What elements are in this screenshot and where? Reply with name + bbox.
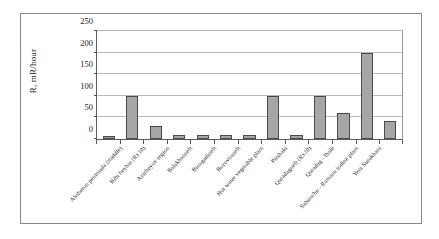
plot-area: 050100150200250 bbox=[96, 30, 403, 140]
x-axis-tickmark bbox=[379, 140, 403, 144]
x-axis-tickmarks bbox=[96, 140, 403, 144]
y-axis-title: R, mR/hour bbox=[28, 21, 38, 121]
bar-slot bbox=[332, 31, 355, 139]
bar-slot bbox=[308, 31, 331, 139]
x-axis-tickmark bbox=[261, 140, 285, 144]
y-axis-tick-label: 100 bbox=[80, 81, 93, 91]
bar bbox=[150, 126, 162, 139]
y-axis-tick-label: 50 bbox=[85, 102, 94, 112]
x-axis-tickmark bbox=[238, 140, 262, 144]
y-axis-tick-label: 150 bbox=[80, 59, 93, 69]
bar bbox=[103, 136, 115, 139]
bar bbox=[337, 113, 349, 139]
bar-slot bbox=[97, 31, 120, 139]
bar-slot bbox=[120, 31, 143, 139]
bar bbox=[173, 135, 185, 139]
bar bbox=[267, 96, 279, 139]
bar bbox=[314, 96, 326, 139]
x-axis-tickmark bbox=[356, 140, 380, 144]
bar bbox=[361, 53, 373, 139]
bar-slot bbox=[214, 31, 237, 139]
y-axis-tick-label: 0 bbox=[89, 124, 93, 134]
bar-slot bbox=[238, 31, 261, 139]
bar-slot bbox=[355, 31, 378, 139]
y-axis-tick-label: 250 bbox=[80, 16, 93, 26]
x-axis-tickmark bbox=[120, 140, 144, 144]
bar-series bbox=[97, 31, 402, 139]
bar-slot bbox=[144, 31, 167, 139]
bar bbox=[384, 121, 396, 139]
bar bbox=[243, 135, 255, 139]
x-axis-label: Binagadineft bbox=[191, 145, 218, 173]
bar-slot bbox=[191, 31, 214, 139]
x-axis-tickmark bbox=[214, 140, 238, 144]
chart-figure: R, mR/hour 050100150200250 Absheron peni… bbox=[20, 13, 422, 224]
bar-slot bbox=[167, 31, 190, 139]
x-axis-tickmark bbox=[167, 140, 191, 144]
bar bbox=[290, 135, 302, 139]
x-axis-tickmark bbox=[308, 140, 332, 144]
x-axis-label: Hot water vegetable plant bbox=[216, 145, 265, 197]
x-axis-tickmark bbox=[285, 140, 309, 144]
bar-slot bbox=[285, 31, 308, 139]
bar bbox=[126, 96, 138, 139]
x-axis-tickmark bbox=[143, 140, 167, 144]
x-axis-tickmark bbox=[96, 140, 120, 144]
x-axis-tickmark bbox=[332, 140, 356, 144]
bar bbox=[197, 135, 209, 139]
x-axis-labels: Absheron peninsula (middle)Bibi heybat (… bbox=[96, 145, 403, 223]
x-axis-label: Pirshaki bbox=[270, 145, 289, 164]
bar bbox=[220, 135, 232, 139]
x-axis-label: Balakhanneft bbox=[166, 145, 193, 174]
bar-slot bbox=[261, 31, 284, 139]
y-axis-tick-label: 200 bbox=[80, 38, 93, 48]
x-axis-tickmark bbox=[190, 140, 214, 144]
bar-slot bbox=[379, 31, 402, 139]
